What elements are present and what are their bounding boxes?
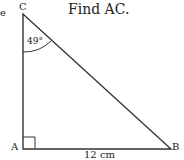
vertex-label-b: B <box>172 142 179 152</box>
triangle-figure <box>0 0 184 160</box>
vertex-label-a: A <box>11 142 18 152</box>
side-label-ab: 12 cm <box>84 150 115 160</box>
right-angle-marker <box>23 137 35 149</box>
vertex-label-c: C <box>19 2 27 12</box>
cropped-text: e <box>0 8 6 18</box>
triangle-abc <box>23 14 171 149</box>
angle-label-c: 49° <box>27 37 43 46</box>
question-title: Find AC. <box>68 2 129 16</box>
